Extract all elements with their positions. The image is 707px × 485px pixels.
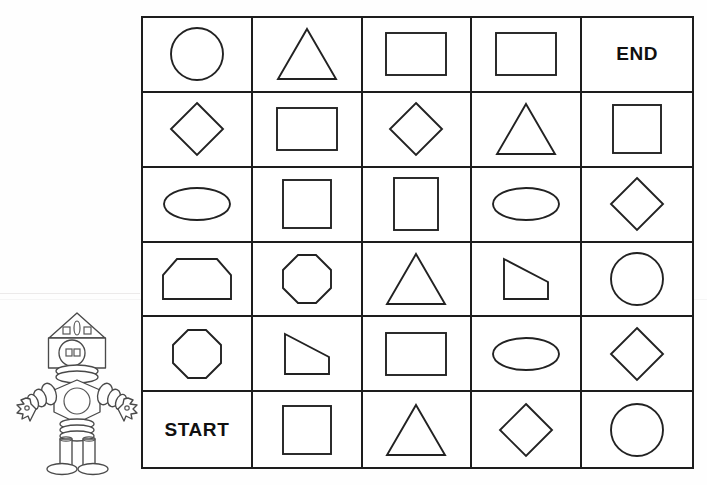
rectangle-shape xyxy=(384,331,448,377)
waist-rings xyxy=(60,419,94,441)
square-shape xyxy=(281,404,333,456)
rectangle-shape xyxy=(384,31,448,77)
circle-shape xyxy=(609,251,665,307)
triangle-shape xyxy=(385,252,447,306)
grid-cell-r4c2[interactable] xyxy=(253,243,363,318)
trapezoid-shape xyxy=(282,331,332,377)
triangle-shape xyxy=(385,403,447,457)
grid-cell-r6c5[interactable] xyxy=(582,392,692,467)
grid-cell-r5c2[interactable] xyxy=(253,317,363,392)
robot-mascot xyxy=(12,305,142,480)
start-label: START xyxy=(164,419,229,441)
grid-cell-r2c5[interactable] xyxy=(582,93,692,168)
diamond-shape xyxy=(169,101,225,157)
left-foot xyxy=(47,464,77,475)
octagon-shape xyxy=(171,328,223,380)
grid-cell-start[interactable]: START xyxy=(143,392,253,467)
grid-cell-r6c2[interactable] xyxy=(253,392,363,467)
grid-cell-r4c5[interactable] xyxy=(582,243,692,318)
grid-cell-r1c3[interactable] xyxy=(363,18,473,93)
rectangle-shape xyxy=(494,31,558,77)
grid-cell-end[interactable]: END xyxy=(582,18,692,93)
grid-cell-r4c3[interactable] xyxy=(363,243,473,318)
trapezoid-shape xyxy=(501,256,551,302)
triangle-shape xyxy=(495,102,557,156)
triangle-shape xyxy=(276,27,338,81)
grid-cell-r6c3[interactable] xyxy=(363,392,473,467)
grid-cell-r1c1[interactable] xyxy=(143,18,253,93)
grid-cell-r2c2[interactable] xyxy=(253,93,363,168)
ellipse-shape xyxy=(162,184,232,224)
square-shape xyxy=(611,103,663,155)
diamond-shape xyxy=(388,101,444,157)
hexagon-shape xyxy=(161,255,233,303)
grid-cell-r5c4[interactable] xyxy=(472,317,582,392)
diamond-shape xyxy=(609,326,665,382)
octagon-shape xyxy=(281,253,333,305)
rectangle-portrait-shape xyxy=(392,176,440,232)
scan-artifact-line xyxy=(0,293,140,294)
grid-cell-r3c2[interactable] xyxy=(253,168,363,243)
square-shape xyxy=(281,178,333,230)
grid-cell-r5c3[interactable] xyxy=(363,317,473,392)
grid-cell-r3c1[interactable] xyxy=(143,168,253,243)
rectangle-shape xyxy=(275,106,339,152)
circle-shape xyxy=(609,402,665,458)
grid-cell-r5c1[interactable] xyxy=(143,317,253,392)
grid-cell-r3c5[interactable] xyxy=(582,168,692,243)
face-circle xyxy=(59,340,85,366)
grid-cell-r6c4[interactable] xyxy=(472,392,582,467)
grid-cell-r3c4[interactable] xyxy=(472,168,582,243)
end-label: END xyxy=(616,43,658,65)
shape-grid: ENDSTART xyxy=(141,16,694,469)
grid-cell-r2c1[interactable] xyxy=(143,93,253,168)
ellipse-shape xyxy=(491,334,561,374)
grid-cell-r1c4[interactable] xyxy=(472,18,582,93)
grid-cell-r2c3[interactable] xyxy=(363,93,473,168)
grid-cell-r3c3[interactable] xyxy=(363,168,473,243)
grid-cell-r4c1[interactable] xyxy=(143,243,253,318)
ellipse-shape xyxy=(491,184,561,224)
diamond-shape xyxy=(498,402,554,458)
body-hexagon xyxy=(54,380,100,423)
right-foot xyxy=(78,464,108,475)
circle-shape xyxy=(169,26,225,82)
grid-cell-r5c5[interactable] xyxy=(582,317,692,392)
diamond-shape xyxy=(609,176,665,232)
grid-cell-r2c4[interactable] xyxy=(472,93,582,168)
grid-cell-r1c2[interactable] xyxy=(253,18,363,93)
grid-cell-r4c4[interactable] xyxy=(472,243,582,318)
